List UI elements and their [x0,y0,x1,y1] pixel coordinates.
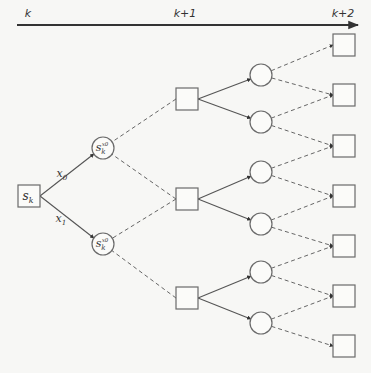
state-k2-node-1 [333,84,355,106]
transition-edge-k2-11 [271,326,333,346]
decision-edge-0 [198,79,251,99]
transition-edge-k2-6 [271,196,333,220]
transition-edge-k2-10 [271,296,333,319]
state-k2-node-2 [333,135,355,157]
transition-edge-k2-9 [271,275,333,296]
chance-k1-node-3 [250,213,272,235]
decision-edge-4 [198,276,251,298]
chance-k1-node-0 [250,64,272,86]
state-k1-node-1 [176,188,198,210]
transition-edge-k2-7 [272,227,333,246]
state-k2-node-3 [333,185,355,207]
decision-edge-1 [198,99,251,118]
action-label-x1: x1 [56,212,67,227]
decision-tree-diagram: k k+1 k+2 skskx0skx0x0x1 [0,0,371,373]
transition-edge-k2-3 [271,125,333,146]
transition-edge-2 [112,199,176,238]
transition-edge-k2-8 [271,246,333,268]
decision-edge-5 [198,298,251,319]
action-edge-1 [40,196,94,238]
state-k1-node-2 [176,287,198,309]
decision-edge-3 [198,199,251,220]
transition-edge-k2-0 [271,45,333,71]
state-k2-node-5 [333,285,355,307]
timeline-label-k-plus-2: k+2 [332,7,355,20]
timeline: k k+1 k+2 [17,7,358,25]
chance-k1-node-5 [250,312,272,334]
state-k2-node-6 [333,335,355,357]
transition-edge-0 [112,99,176,142]
transition-edge-3 [112,251,176,298]
transition-edge-k2-1 [272,78,333,95]
nodes [18,34,355,357]
timeline-label-k: k [25,7,32,20]
chance-k1-node-4 [250,261,272,283]
transition-edge-k2-5 [271,175,333,196]
chance-k1-node-1 [250,111,272,133]
state-k1-node-0 [176,88,198,110]
decision-edge-2 [198,176,251,199]
action-label-x0: x0 [57,167,68,182]
timeline-label-k-plus-1: k+1 [174,7,197,20]
chance-k1-node-2 [250,161,272,183]
state-k2-node-4 [333,235,355,257]
transition-edge-1 [112,154,176,199]
transition-edge-k2-4 [271,146,333,168]
state-k2-node-0 [333,34,355,56]
transition-edge-k2-2 [271,95,333,118]
